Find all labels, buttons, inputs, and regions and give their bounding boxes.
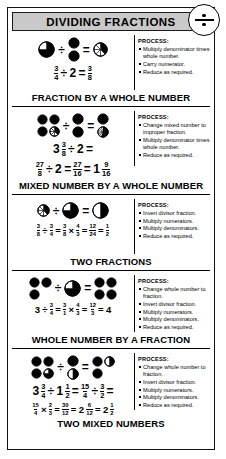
mixed-number: 2612 [78,403,94,417]
example-column: ÷=34÷2=38 [12,35,134,82]
pie-fraction-icon [92,202,109,219]
section-whole-number-by-a-fraction: ÷=3÷34=31×43=123=4PROCESS:Change whole n… [12,271,210,349]
fraction-numerator: 3 [88,65,92,73]
fraction-denominator: 1 [63,309,66,316]
process-steps: Invert divisor fraction.Multiply numerat… [138,210,210,241]
fraction-denominator: 8 [63,230,66,237]
fraction-denominator: 16 [102,169,110,178]
fraction: 2716 [72,161,82,178]
equals-operator: = [83,282,92,294]
process-steps: Change mixed number to improper fraction… [138,122,210,159]
fraction-numerator: 15 [81,383,89,391]
fraction-denominator: 24 [89,230,96,237]
fraction-denominator: 12 [86,409,93,416]
section-two-fractions: ÷=38÷34=38×43=1224=12PROCESS:Invert divi… [12,195,210,271]
equation: 334÷112=154÷32= [31,383,115,400]
fraction-denominator: 2 [110,409,113,416]
number: 2 [68,67,77,79]
fraction-denominator: 2 [65,391,69,400]
process-step: Multiply numerators. [138,387,210,394]
whole-circle-icon [106,289,117,300]
divide-glyph [195,14,214,26]
fraction-denominator: 8 [88,73,92,82]
mixed-number: 334 [31,383,46,400]
divide-dot-bottom [202,23,205,26]
process-heading: PROCESS: [138,356,210,363]
divide-bar [195,19,214,22]
fraction: 1224 [88,224,97,238]
number: 2 [54,163,63,175]
divide-dot-top [202,14,205,17]
pie-fraction-icon [104,356,115,367]
pie-fraction-icon [62,202,79,219]
equals-operator: = [85,143,94,155]
process-steps: Multiply denominator times whole number.… [138,46,210,76]
shape-group [68,37,80,62]
process-step: Reduce as required. [138,152,210,159]
equals-operator: = [82,44,91,56]
whole-circle-icon [92,368,103,379]
multiply-operator: × [67,226,75,236]
equals-operator: = [97,226,105,236]
process-heading: PROCESS: [138,38,210,45]
whole-circle-icon [94,277,105,288]
whole-part: 2 [102,405,110,415]
process-heading: PROCESS: [138,278,210,285]
equals-operator: = [77,67,86,79]
process-step: Carry numerator. [138,61,210,68]
shape-group [72,113,84,138]
multiply-operator: × [67,305,75,315]
pie-fraction-icon [93,42,108,57]
equation: 338÷2= [52,141,95,158]
example-column: ÷=3÷34=31×43=123=4 [12,275,134,317]
pie-fraction-icon [67,368,79,380]
section-content: ÷=34÷2=38PROCESS:Multiply denominator ti… [12,35,210,90]
equals-operator: = [94,405,102,415]
whole-circle-icon [29,289,40,300]
shape-group [93,42,108,57]
shape-group [29,277,52,300]
equals-operator: = [63,163,72,175]
whole-circle-icon [68,37,80,49]
process-step: Reduce as required. [138,324,210,331]
fraction-numerator: 27 [36,161,44,169]
shape-group [94,277,117,300]
whole-circle-icon [41,277,52,288]
equals-operator: = [80,226,88,236]
shape-group [62,202,79,219]
process-heading: PROCESS: [138,114,210,121]
whole-part: 3 [52,143,61,155]
fraction-numerator: 3 [62,141,66,149]
process-step: Multiply denominator times whole number. [138,137,210,152]
fraction-denominator: 8 [62,149,66,158]
process-step: Reduce as required. [138,402,210,409]
equals-operator: = [71,385,80,397]
process-step: Multiply denominator times whole number. [138,46,210,61]
divide-operator: ÷ [54,282,63,294]
fraction: 278 [35,161,45,178]
process-column: PROCESS:Multiply denominator times whole… [134,35,210,90]
fraction-numerator: 3 [100,383,104,391]
fraction: 3012 [61,403,70,417]
sections-container: ÷=34÷2=38PROCESS:Multiply denominator ti… [8,31,214,434]
process-step: Multiply numerators. [138,218,210,225]
divide-operator: ÷ [46,385,55,397]
whole-circle-icon [31,368,42,379]
divide-operator: ÷ [52,205,61,217]
page-title: DIVIDING FRACTIONS [46,16,176,28]
divide-symbol-icon [188,4,220,36]
equals-operator: = [97,305,105,315]
equation: 34÷2=38 [53,65,93,82]
whole-circle-icon [37,114,48,125]
process-step: Reduce as required. [138,69,210,76]
equals-operator: = [80,305,88,315]
section-content: ÷=334÷112=154÷32=154×23=3012=2612=212PRO… [12,353,210,417]
equals-operator: = [53,405,61,415]
whole-part: 1 [92,163,101,175]
equals-operator: = [105,385,114,397]
section-content: ÷=338÷2=278÷2=2716=1916PROCESS:Change mi… [12,111,210,178]
picture-equation: ÷= [37,113,110,138]
shape-group [64,280,81,297]
pie-fraction-icon [38,41,55,58]
picture-equation: ÷= [31,355,115,380]
